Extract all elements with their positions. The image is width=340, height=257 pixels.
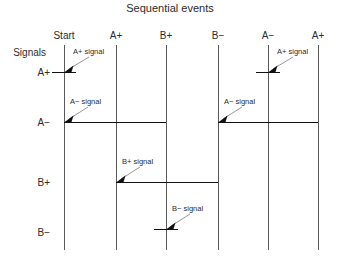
column-header-a-plus-1: A+ xyxy=(110,30,123,41)
column-header-b-minus: B− xyxy=(212,30,225,41)
row-label-a-minus: A− xyxy=(37,117,50,128)
sequential-events-diagram: Sequential events Start A+ B+ B− A− A+ S… xyxy=(0,0,340,257)
row-label-b-plus: B+ xyxy=(37,177,50,188)
leader-a-minus-signal-right xyxy=(218,107,242,123)
arrow-head-icon xyxy=(166,223,176,230)
row-label-b-minus: B− xyxy=(37,227,50,238)
leader-a-plus-signal-right xyxy=(268,57,293,73)
column-header-a-plus-2: A+ xyxy=(312,30,325,41)
column-header-row: Start A+ B+ B− A− A+ xyxy=(53,30,324,41)
annotation-a-plus-signal-right: A+ signal xyxy=(277,47,308,56)
leader-b-plus-signal xyxy=(116,167,140,183)
page-title: Sequential events xyxy=(126,2,214,14)
row-label-signals: Signals xyxy=(13,47,46,58)
arrow-head-icon xyxy=(116,176,126,183)
column-header-start: Start xyxy=(53,30,74,41)
arrow-head-icon xyxy=(268,66,278,73)
arrow-head-icon xyxy=(218,116,228,123)
leader-a-plus-signal-left xyxy=(64,57,89,73)
event-column-lines xyxy=(65,45,319,250)
annotation-a-plus-signal-left: A+ signal xyxy=(73,47,104,56)
column-header-a-minus: A− xyxy=(262,30,275,41)
annotation-b-plus-signal: B+ signal xyxy=(122,157,153,166)
diagram-canvas: Sequential events Start A+ B+ B− A− A+ S… xyxy=(0,0,340,257)
arrow-head-icon xyxy=(64,66,74,73)
leader-b-minus-signal xyxy=(166,214,190,230)
signal-level-lines xyxy=(64,123,318,183)
row-label-a-plus: A+ xyxy=(37,67,50,78)
row-label-column: Signals A+ A− B+ B− xyxy=(13,47,50,238)
leader-a-minus-signal-left xyxy=(64,107,88,123)
arrow-head-icon xyxy=(64,116,74,123)
annotation-a-minus-signal-left: A− signal xyxy=(70,97,101,106)
column-header-b-plus: B+ xyxy=(160,30,173,41)
annotation-a-minus-signal-right: A− signal xyxy=(224,97,255,106)
annotation-b-minus-signal: B− signal xyxy=(172,204,203,213)
